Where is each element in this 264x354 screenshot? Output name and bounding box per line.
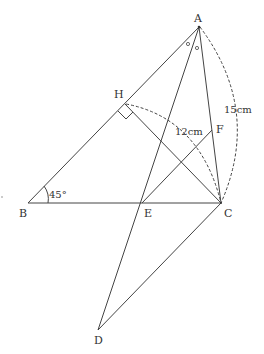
point-a-dot: [198, 26, 201, 29]
label-d: D: [94, 334, 103, 347]
segment-cd: [98, 203, 221, 330]
label-f: F: [216, 123, 224, 136]
angle-mark-2: [195, 46, 198, 49]
label-h: H: [114, 88, 124, 101]
length-label-ac: 15cm: [224, 104, 252, 115]
geometry-diagram: A H B E C F D 45° 15cm 12cm: [0, 0, 264, 354]
label-b: B: [19, 207, 27, 220]
length-label-ch: 12cm: [175, 126, 203, 137]
label-c: C: [224, 207, 232, 220]
point-c-dot: [220, 202, 222, 204]
segment-hc: [125, 104, 221, 203]
angle-label-b: 45°: [49, 189, 67, 200]
label-e: E: [144, 207, 152, 220]
angle-mark-1: [186, 42, 189, 45]
segment-ac: [199, 27, 221, 203]
right-angle-mark-h: [118, 111, 133, 119]
angle-arc-b: [44, 186, 48, 203]
dashed-arc-ac: [200, 27, 237, 203]
segment-ab: [28, 27, 199, 203]
segment-ad: [98, 27, 199, 330]
label-a: A: [193, 12, 203, 25]
stray-mark: [1, 196, 3, 198]
